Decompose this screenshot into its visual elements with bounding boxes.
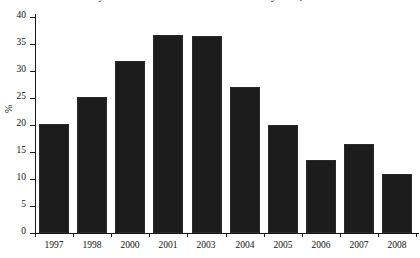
chart-title: Poverty Measure as the % of Official Pov…	[0, 0, 420, 2]
bar	[192, 36, 222, 233]
y-tick-label: 5	[0, 199, 26, 209]
x-tick-label: 1998	[73, 240, 111, 250]
x-tick-label: 2004	[226, 240, 264, 250]
y-tick-label: 40	[0, 10, 26, 20]
bar	[382, 174, 412, 233]
x-tick-label: 2005	[264, 240, 302, 250]
x-tick	[378, 233, 379, 237]
bar	[344, 144, 374, 233]
plot-area	[35, 17, 416, 233]
x-tick	[111, 233, 112, 237]
y-tick-label: 30	[0, 64, 26, 74]
x-tick-label: 1997	[35, 240, 73, 250]
x-tick	[416, 233, 417, 237]
y-tick-label: 0	[0, 226, 26, 236]
x-tick	[73, 233, 74, 237]
bar	[268, 125, 298, 233]
y-tick-label: 25	[0, 91, 26, 101]
x-tick-label: 2000	[111, 240, 149, 250]
y-tick-label: 20	[0, 118, 26, 128]
x-tick	[35, 233, 36, 237]
x-tick-label: 2003	[187, 240, 225, 250]
y-tick-label: 35	[0, 37, 26, 47]
y-tick-label: 10	[0, 172, 26, 182]
bar	[39, 124, 69, 233]
bar	[77, 97, 107, 233]
bar	[230, 87, 260, 233]
bar-chart: Poverty Measure as the % of Official Pov…	[0, 0, 420, 258]
bar	[306, 160, 336, 233]
x-tick-label: 2007	[340, 240, 378, 250]
x-tick	[340, 233, 341, 237]
x-tick	[226, 233, 227, 237]
x-tick-label: 2008	[378, 240, 416, 250]
x-tick	[149, 233, 150, 237]
x-tick	[187, 233, 188, 237]
y-tick-label: 15	[0, 145, 26, 155]
x-tick-label: 2006	[302, 240, 340, 250]
x-tick-label: 2001	[149, 240, 187, 250]
x-tick	[264, 233, 265, 237]
bar	[115, 61, 145, 233]
x-axis-line	[31, 233, 419, 234]
x-tick	[302, 233, 303, 237]
bar	[153, 35, 183, 233]
y-axis-label: %	[3, 105, 14, 113]
